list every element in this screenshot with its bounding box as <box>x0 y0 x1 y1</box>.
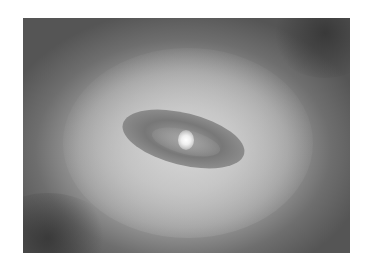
dark-sky-region <box>270 18 350 78</box>
bright-nucleus <box>178 130 194 150</box>
galaxy-photo <box>23 18 350 253</box>
